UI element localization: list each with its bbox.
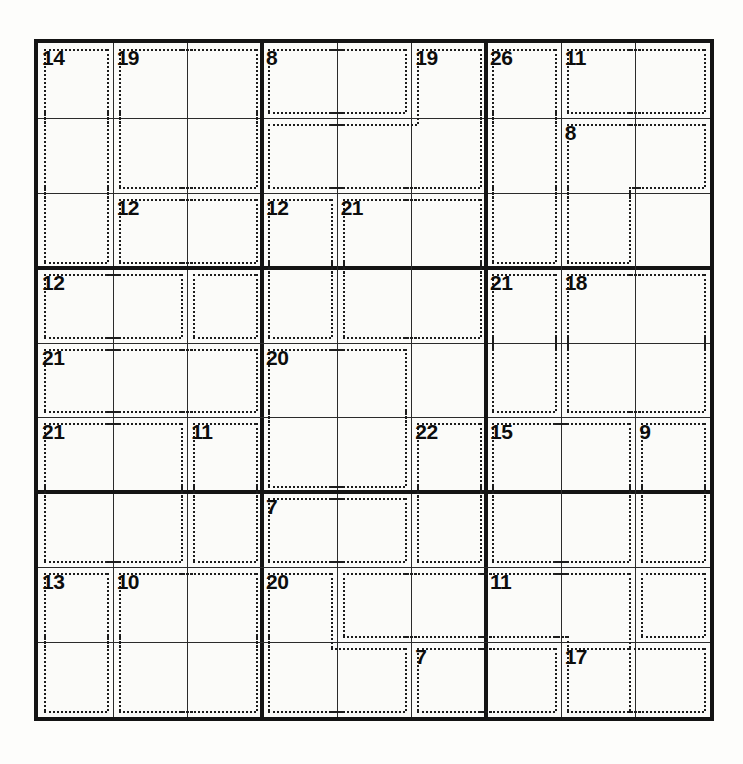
grid-outer-border <box>34 39 714 721</box>
killer-sudoku-puzzle: 1419819261181212211221182120211122159713… <box>0 0 743 764</box>
